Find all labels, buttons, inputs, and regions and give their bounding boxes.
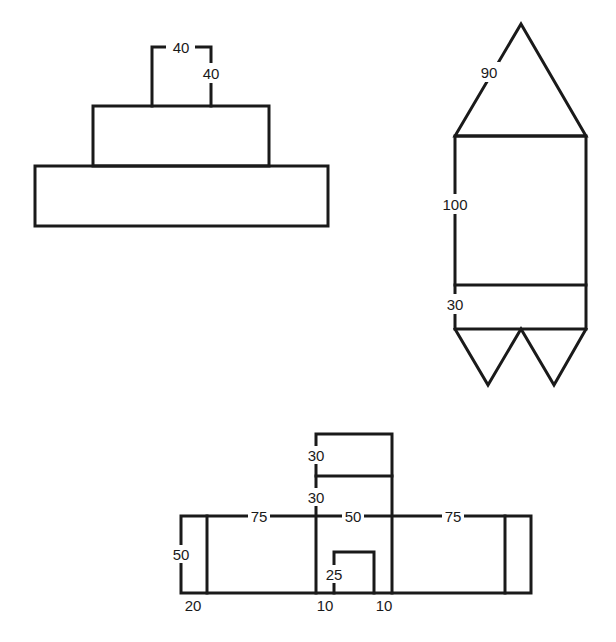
label-square-right-height: 40: [203, 65, 220, 82]
label-tower-top-height: 30: [308, 447, 325, 464]
label-door-left-offset: 10: [317, 597, 334, 614]
main-rectangle: [181, 516, 531, 593]
diagram-svg: 40 40 90 100 30 30: [0, 0, 616, 642]
label-door-height: 25: [326, 566, 343, 583]
body-rectangle: [455, 136, 586, 329]
label-left-band-width: 20: [185, 597, 202, 614]
figure-stacked-rectangles: 40 40: [35, 38, 328, 226]
label-left-height: 50: [173, 546, 190, 563]
bottom-rectangle: [35, 166, 328, 226]
label-right-width: 75: [445, 508, 462, 525]
label-door-right-offset: 10: [376, 597, 393, 614]
diagram-canvas: 40 40 90 100 30 30: [0, 0, 616, 642]
figure-rocket: 90 100 30: [440, 24, 586, 385]
figure-house-with-tower: 30 30 75 50 75 50 20 25 10 10: [171, 434, 531, 614]
top-triangle: [455, 24, 586, 136]
bottom-triangles: [455, 329, 586, 385]
middle-rectangle: [93, 106, 269, 166]
label-tower-mid-height: 30: [308, 489, 325, 506]
label-square-top-width: 40: [173, 39, 190, 56]
label-triangle-side: 90: [481, 64, 498, 81]
label-rect-height: 100: [442, 196, 467, 213]
label-band-height: 30: [447, 296, 464, 313]
label-left-width: 75: [251, 508, 268, 525]
label-center-width: 50: [345, 508, 362, 525]
